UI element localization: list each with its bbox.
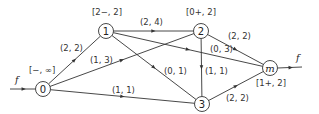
edge-label-1-2: (2, 4) — [140, 17, 163, 27]
edge-label-0-1: (2, 2) — [60, 43, 83, 53]
labels-layer: (2, 2)(1, 3)(1, 1)(2, 4)(0, 1)(0, 3)(2, … — [14, 7, 301, 103]
edge-label-0-2: (1, 3) — [90, 55, 113, 65]
edge-label-2-m: (2, 2) — [228, 31, 251, 41]
edge-label-3-m: (2, 2) — [226, 93, 249, 103]
arrowhead-icon — [151, 29, 155, 33]
node-1: 1 — [99, 24, 114, 39]
flow-network-diagram: 0123m (2, 2)(1, 3)(1, 1)(2, 4)(0, 1)(0, … — [0, 0, 319, 114]
arrowhead-icon — [22, 87, 26, 91]
arrowhead-icon — [119, 59, 124, 62]
node-mark-0: [−, ∞] — [29, 65, 55, 75]
arrowhead-icon — [200, 65, 204, 69]
node-mark-m: [1+, 2] — [256, 78, 286, 88]
edge-label-2-3: (1, 1) — [205, 66, 228, 76]
node-mark-1: [2−, 2] — [92, 7, 122, 17]
edge-label-1-m: (0, 3) — [210, 44, 233, 54]
node-m: m — [263, 61, 278, 76]
arrowhead-icon — [288, 66, 292, 70]
node-label: 2 — [198, 26, 204, 37]
node-2: 2 — [194, 24, 209, 39]
node-label: 1 — [103, 26, 109, 37]
node-mark-2: [0+, 2] — [186, 7, 216, 17]
node-0: 0 — [36, 82, 51, 97]
flow-in-label: f — [14, 74, 20, 85]
edge-label-0-3: (1, 1) — [112, 85, 135, 95]
node-label: m — [265, 63, 274, 74]
node-3: 3 — [195, 97, 210, 112]
flow-out-label: f — [295, 52, 301, 63]
edge-label-1-3: (0, 1) — [164, 66, 187, 76]
node-label: 3 — [199, 99, 205, 110]
node-label: 0 — [40, 84, 46, 95]
